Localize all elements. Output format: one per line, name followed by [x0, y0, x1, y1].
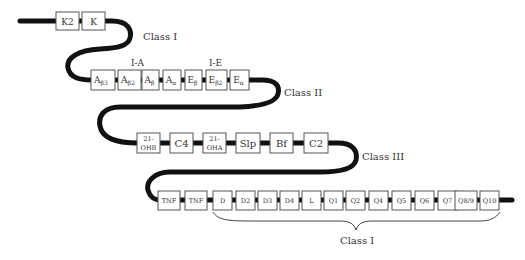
gene-box-q10[interactable]: Q10	[480, 191, 499, 210]
svg-text:Q4: Q4	[374, 197, 383, 205]
gene-box-l[interactable]: L	[302, 191, 321, 210]
svg-text:Q1: Q1	[329, 197, 338, 205]
mhc-gene-map: K2 K Class I I-A I-E Aβ3 Aβ2 Aβ Aα Eβ	[0, 0, 525, 260]
svg-text:Q8/9: Q8/9	[458, 197, 474, 205]
svg-text:Slp: Slp	[240, 138, 256, 149]
gene-box-a-beta3[interactable]: Aβ3	[91, 70, 115, 90]
svg-text:21-: 21-	[209, 135, 219, 143]
svg-text:K: K	[90, 17, 97, 27]
svg-text:K2: K2	[61, 17, 73, 27]
svg-text:Q7: Q7	[443, 197, 452, 205]
gene-box-d[interactable]: D	[213, 191, 232, 210]
class-i-label: Class I	[143, 31, 177, 42]
gene-box-a-beta2[interactable]: Aβ2	[118, 70, 141, 90]
svg-text:Q5: Q5	[397, 197, 406, 205]
i-a-label: I-A	[131, 58, 145, 68]
gene-box-tnf-1[interactable]: TNF	[158, 191, 180, 210]
svg-text:Q2: Q2	[351, 197, 360, 205]
gene-box-q5[interactable]: Q5	[392, 191, 411, 210]
gene-box-slp[interactable]: Slp	[236, 133, 260, 153]
gene-box-a-beta[interactable]: Aβ	[142, 70, 159, 90]
i-e-label: I-E	[209, 58, 222, 68]
row2-genes: Aβ3 Aβ2 Aβ Aα Eβ Eβ2 Eα	[91, 70, 249, 90]
svg-text:D3: D3	[263, 197, 272, 205]
gene-box-tnf-2[interactable]: TNF	[185, 191, 207, 210]
gene-box-q2[interactable]: Q2	[346, 191, 365, 210]
svg-text:21-: 21-	[143, 135, 153, 143]
svg-text:TNF: TNF	[162, 197, 177, 205]
gene-box-d2[interactable]: D2	[236, 191, 255, 210]
svg-text:OHB: OHB	[141, 144, 157, 152]
svg-text:D: D	[220, 197, 225, 205]
gene-box-c4[interactable]: C4	[170, 133, 193, 153]
svg-text:D4: D4	[285, 197, 294, 205]
gene-box-21-oha[interactable]: 21- OHA	[203, 133, 226, 153]
gene-box-k2[interactable]: K2	[56, 12, 79, 30]
gene-box-k[interactable]: K	[82, 12, 105, 30]
chromosome-line	[20, 21, 512, 200]
gene-box-d3[interactable]: D3	[258, 191, 277, 210]
gene-box-e-beta[interactable]: Eβ	[185, 70, 202, 90]
gene-box-21-ohb[interactable]: 21- OHB	[137, 133, 160, 153]
gene-box-q6[interactable]: Q6	[415, 191, 434, 210]
gene-box-q7[interactable]: Q7	[438, 191, 457, 210]
gene-box-e-alpha[interactable]: Eα	[230, 70, 249, 90]
gene-box-a-alpha[interactable]: Aα	[163, 70, 181, 90]
svg-text:Q6: Q6	[420, 197, 429, 205]
svg-text:Bf: Bf	[276, 138, 288, 149]
class-i-brace	[213, 212, 500, 230]
class-iii-label: Class III	[362, 151, 404, 162]
gene-box-c2[interactable]: C2	[304, 133, 328, 153]
svg-text:TNF: TNF	[189, 197, 204, 205]
gene-box-q8-9[interactable]: Q8/9	[455, 191, 477, 210]
class-ii-label: Class II	[284, 87, 322, 98]
svg-text:D2: D2	[241, 197, 250, 205]
svg-text:OHA: OHA	[207, 144, 223, 152]
gene-box-d4[interactable]: D4	[280, 191, 299, 210]
svg-text:Q10: Q10	[483, 197, 497, 205]
gene-box-bf[interactable]: Bf	[270, 133, 293, 153]
svg-text:L: L	[309, 197, 314, 205]
class-i-bottom-label: Class I	[340, 235, 374, 246]
gene-box-q1[interactable]: Q1	[324, 191, 343, 210]
svg-text:C4: C4	[174, 138, 188, 149]
svg-text:C2: C2	[309, 138, 323, 149]
gene-box-q4[interactable]: Q4	[369, 191, 388, 210]
gene-box-e-beta2[interactable]: Eβ2	[206, 70, 227, 90]
